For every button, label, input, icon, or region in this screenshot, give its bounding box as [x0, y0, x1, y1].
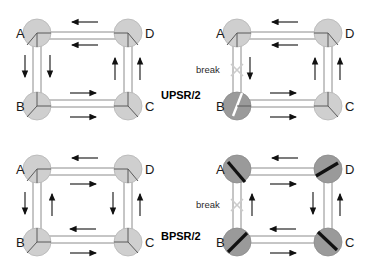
node-C[interactable]: C: [114, 92, 154, 120]
node-label-C: C: [345, 99, 354, 114]
panel-bpsr-break: A D B C break: [196, 155, 354, 256]
node-label-B: B: [16, 235, 25, 250]
node-A[interactable]: A: [16, 19, 51, 47]
node-label-A: A: [16, 162, 25, 177]
node-label-B: B: [16, 99, 25, 114]
break-label: break: [196, 64, 220, 75]
ring-links: [233, 168, 332, 243]
node-label-D: D: [145, 162, 154, 177]
node-label-D: D: [345, 162, 354, 177]
node-A[interactable]: A: [16, 155, 51, 183]
scheme-label-bpsr: BPSR/2: [161, 230, 201, 242]
node-label-A: A: [16, 26, 25, 41]
node-B[interactable]: B: [16, 228, 51, 256]
scheme-label-upsr: UPSR/2: [161, 89, 201, 101]
ring-links: [33, 168, 132, 243]
node-label-A: A: [216, 26, 225, 41]
node-label-C: C: [145, 99, 154, 114]
ring-links: [33, 32, 132, 107]
node-label-A: A: [216, 162, 225, 177]
figure-canvas: A D B C: [0, 0, 370, 269]
node-B[interactable]: B: [16, 92, 51, 120]
node-D[interactable]: D: [114, 19, 154, 47]
node-label-D: D: [345, 26, 354, 41]
panel-upsr-break: A D B C b: [196, 19, 354, 120]
node-B[interactable]: B: [216, 92, 251, 120]
panel-bpsr-normal: A D B C: [16, 155, 154, 256]
panel-upsr-normal: A D B C: [16, 19, 154, 120]
node-A[interactable]: A: [216, 155, 251, 183]
node-label-B: B: [216, 99, 225, 114]
break-marker: break: [196, 64, 243, 76]
node-label-D: D: [145, 26, 154, 41]
node-B[interactable]: B: [216, 228, 251, 256]
ring-links: [233, 32, 332, 107]
node-label-C: C: [345, 235, 354, 250]
node-C[interactable]: C: [314, 228, 354, 256]
node-D[interactable]: D: [314, 155, 354, 183]
node-C[interactable]: C: [314, 92, 354, 120]
node-C[interactable]: C: [114, 228, 154, 256]
node-D[interactable]: D: [314, 19, 354, 47]
node-label-B: B: [216, 235, 225, 250]
node-A[interactable]: A: [216, 19, 251, 47]
break-marker: break: [196, 199, 243, 211]
node-D[interactable]: D: [114, 155, 154, 183]
node-label-C: C: [145, 235, 154, 250]
break-label: break: [196, 199, 220, 210]
